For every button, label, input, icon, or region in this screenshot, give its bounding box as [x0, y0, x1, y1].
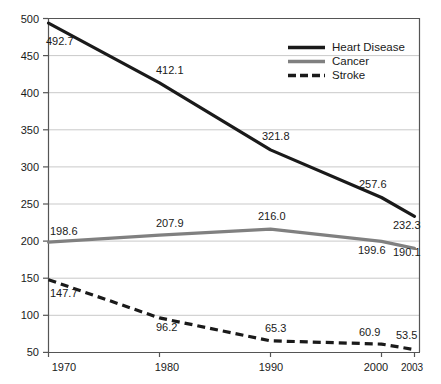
data-label-st-2000: 60.9 [359, 326, 380, 338]
xtick-label-1980: 1980 [155, 361, 179, 373]
xtick-label-1970: 1970 [52, 361, 76, 373]
xtick-label-1990: 1990 [259, 361, 283, 373]
ytick-label-150: 150 [21, 272, 39, 284]
x-axis-tick-labels: 1970 1980 1990 2000 2003 [52, 361, 424, 373]
data-label-hd-2003: 232.3 [393, 219, 421, 231]
ytick-label-400: 400 [21, 87, 39, 99]
ytick-label-500: 500 [21, 13, 39, 25]
chart-canvas: 500 450 400 350 300 250 200 150 100 50 1… [0, 0, 441, 384]
data-label-hd-2000: 257.6 [359, 178, 387, 190]
ytick-label-350: 350 [21, 124, 39, 136]
ytick-label-300: 300 [21, 161, 39, 173]
xtick-label-2003: 2003 [401, 362, 424, 373]
data-label-hd-1970: 492.7 [46, 35, 74, 47]
xtick-label-2000: 2000 [364, 361, 388, 373]
data-label-ca-1980: 207.9 [156, 217, 184, 229]
y-axis-ticks [43, 19, 48, 353]
data-label-hd-1980: 412.1 [156, 64, 184, 76]
data-label-st-1980: 96.2 [156, 321, 177, 333]
legend-label-heart-disease: Heart Disease [332, 41, 405, 53]
legend-label-stroke: Stroke [332, 69, 365, 81]
ytick-label-250: 250 [21, 198, 39, 210]
data-label-ca-1970: 198.6 [50, 225, 78, 237]
data-label-ca-2000: 199.6 [358, 244, 386, 256]
y-axis-tick-labels: 500 450 400 350 300 250 200 150 100 50 [21, 13, 39, 359]
ytick-label-200: 200 [21, 235, 39, 247]
data-label-st-1990: 65.3 [265, 322, 286, 334]
data-label-ca-2003: 190.1 [393, 246, 421, 258]
data-label-st-2003: 53.5 [396, 329, 417, 341]
data-label-st-1970: 147.7 [50, 287, 78, 299]
legend-label-cancer: Cancer [332, 55, 369, 67]
ytick-label-450: 450 [21, 50, 39, 62]
ytick-label-50: 50 [27, 346, 39, 358]
data-label-ca-1990: 216.0 [258, 210, 286, 222]
line-chart: 500 450 400 350 300 250 200 150 100 50 1… [0, 0, 441, 384]
ytick-label-100: 100 [21, 309, 39, 321]
data-label-hd-1990: 321.8 [262, 130, 290, 142]
